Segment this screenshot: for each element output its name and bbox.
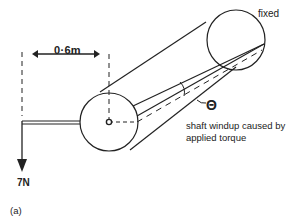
fixed-label: fixed [258,8,279,19]
theta-label: Θ [206,97,217,113]
fixed-end-circle [207,10,265,70]
force-label: 7N [17,177,30,188]
force-arrowhead-icon [17,159,27,172]
figure-label: (a) [10,205,22,216]
shaft-top-edge [100,22,206,92]
shaft-diagram [0,0,298,216]
dimension-label: 0·6m [54,44,81,56]
theta-leader [197,100,206,103]
shaft-center [106,119,111,124]
axis-dashed [137,50,262,122]
arrowhead-right-icon [94,50,100,58]
windup-caption: shaft windup caused by applied torque [186,120,296,144]
arrowhead-left-icon [32,50,38,58]
